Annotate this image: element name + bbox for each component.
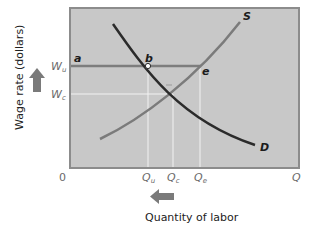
left-arrow-icon: [150, 189, 174, 204]
y-axis-title: Wage rate (dollars): [13, 25, 26, 130]
labor-market-diagram: a b e S D Wu Wc 0 Qu Qc Qe Q Wage rate (…: [0, 0, 311, 235]
curve-d-label: D: [260, 141, 269, 154]
point-b-label: b: [145, 52, 153, 65]
x-tick-qu: Qu: [142, 171, 156, 185]
x-tick-qc: Qc: [167, 171, 180, 185]
curve-s-label: S: [243, 10, 251, 23]
x-tick-qe: Qe: [194, 171, 207, 185]
x-axis-title: Quantity of labor: [145, 211, 239, 224]
point-e-label: e: [202, 65, 210, 78]
x-tick-origin: 0: [59, 171, 66, 184]
x-tick-q: Q: [292, 171, 301, 184]
y-tick-wu: Wu: [51, 60, 67, 74]
point-a-label: a: [74, 52, 81, 65]
up-arrow-icon: [29, 68, 45, 92]
y-tick-wc: Wc: [51, 88, 66, 102]
